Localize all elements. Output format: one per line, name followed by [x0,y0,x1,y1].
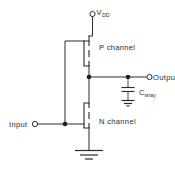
input-terminal-circle[interactable] [32,121,37,126]
cap-sublabel: stray [145,92,157,98]
circuit-diagram: P channel Output C stray [0,0,175,170]
n-channel-label: N channel [99,117,136,126]
schematic-canvas: P channel Output C stray [0,0,175,170]
vdd-sublabel: DD [102,12,110,18]
ground [75,151,103,160]
n-channel-mosfet[interactable] [84,77,89,150]
capacitor-ground [122,101,135,107]
p-channel-label: P channel [99,43,135,52]
p-gate-bus-wire [65,41,84,124]
gate-interconnect [63,41,84,126]
vdd-terminal-circle[interactable] [90,11,95,16]
vdd-label-group: V DD [97,8,110,18]
p-channel-mosfet[interactable] [84,36,89,77]
vdd-terminal-group [89,11,95,36]
input-label: Input [9,120,28,129]
cap-label-group: C stray [139,88,156,98]
output-net-group [87,74,152,79]
input-terminal-group [32,121,65,126]
vdd-supply-wire [89,17,93,36]
stray-capacitor[interactable] [122,77,135,106]
output-terminal-circle[interactable] [147,74,152,79]
output-label: Output [153,73,175,82]
